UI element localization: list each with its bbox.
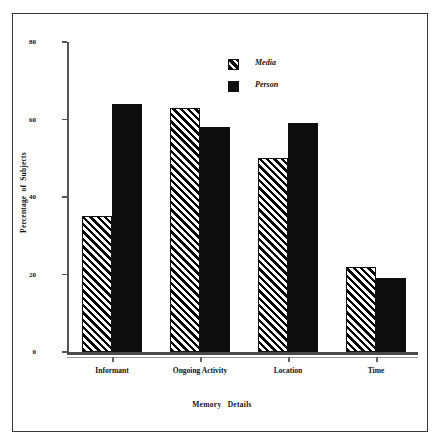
x-axis-title: Memory Details — [0, 400, 444, 409]
bar-person-time — [376, 278, 406, 352]
x-tick-label-location: Location — [274, 366, 302, 375]
bar-media-location — [258, 158, 288, 352]
bar-person-informant — [112, 104, 142, 352]
y-tick-mark — [62, 119, 67, 121]
y-tick-label: 80 — [12, 38, 36, 46]
legend-item-person: Person — [228, 79, 348, 101]
legend-item-media: Media — [228, 57, 348, 79]
y-tick-mark — [62, 351, 67, 353]
bar-media-informant — [82, 216, 112, 352]
x-axis-line — [67, 352, 418, 355]
y-axis-ticks: 020406080 — [0, 0, 62, 448]
y-tick-label: 0 — [12, 348, 36, 356]
y-axis-title: Percentage of Subjects — [19, 123, 28, 263]
x-tick-mark — [112, 357, 114, 362]
x-tick-mark — [376, 357, 378, 362]
legend-label-person: Person — [255, 80, 278, 89]
bar-person-location — [288, 123, 318, 352]
x-tick-label-informant: Informant — [95, 366, 128, 375]
x-tick-mark — [200, 357, 202, 362]
bar-person-ongoing-activity — [200, 127, 230, 352]
bar-media-ongoing-activity — [170, 108, 200, 352]
x-tick-label-time: Time — [368, 366, 385, 375]
x-axis-baseline-shadow — [67, 357, 418, 358]
figure: 020406080 Media Person Memory Details Pe… — [0, 0, 444, 448]
legend-swatch-person-icon — [228, 81, 239, 92]
x-tick-mark — [288, 357, 290, 362]
y-tick-mark — [62, 196, 67, 198]
y-tick-label: 20 — [12, 271, 36, 279]
legend-label-media: Media — [255, 58, 276, 67]
legend-swatch-media-icon — [228, 59, 239, 70]
y-tick-mark — [62, 41, 67, 43]
chart-legend: Media Person — [228, 57, 348, 101]
x-tick-label-ongoing-activity: Ongoing Activity — [173, 366, 227, 375]
y-tick-mark — [62, 274, 67, 276]
bar-media-time — [346, 267, 376, 352]
